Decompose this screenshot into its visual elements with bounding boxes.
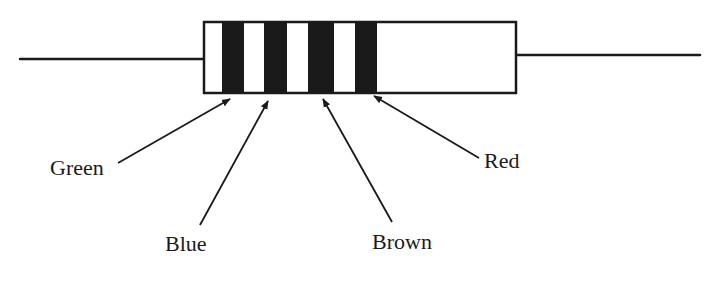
label-red: Red: [484, 150, 519, 172]
label-brown: Brown: [372, 231, 432, 253]
resistor-drawing: [0, 0, 712, 285]
resistor-diagram: Green Blue Brown Red: [0, 0, 712, 285]
label-green: Green: [50, 157, 104, 179]
arrow-brown: [323, 99, 392, 222]
arrow-red: [374, 96, 479, 158]
label-arrows: [118, 96, 479, 225]
band-2: [264, 22, 287, 93]
band-4: [355, 22, 377, 93]
band-3: [308, 22, 334, 93]
band-1: [222, 22, 244, 93]
label-blue: Blue: [165, 233, 207, 255]
arrow-blue: [200, 101, 268, 225]
arrow-green: [118, 99, 230, 163]
